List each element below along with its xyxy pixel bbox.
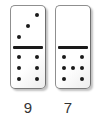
pip-cell <box>60 9 69 20</box>
pip-icon <box>62 77 66 81</box>
pip-icon <box>35 55 39 59</box>
pip-icon <box>26 24 30 28</box>
pip-cell <box>32 31 41 42</box>
pip-cell <box>15 20 24 31</box>
pip-cell <box>69 74 78 85</box>
pip-cell <box>32 63 41 74</box>
pip-cell <box>15 74 24 85</box>
pip-cell <box>77 20 86 31</box>
domino-bottom-half <box>56 49 90 89</box>
pip-icon <box>35 13 39 17</box>
pip-icon <box>80 77 84 81</box>
pip-icon <box>17 35 21 39</box>
pip-cell <box>15 52 24 63</box>
pip-cell <box>77 9 86 20</box>
pip-icon <box>80 66 84 70</box>
pip-icon <box>17 77 21 81</box>
pip-cell <box>69 31 78 42</box>
domino-bottom-half <box>11 49 45 89</box>
pip-cell <box>60 63 69 74</box>
pip-cell <box>24 52 33 63</box>
pip-cell <box>32 9 41 20</box>
domino-3-6 <box>10 5 46 89</box>
pip-cell <box>32 74 41 85</box>
pip-icon <box>17 55 21 59</box>
pip-cell <box>32 20 41 31</box>
pip-cell <box>69 63 78 74</box>
pip-cell <box>69 20 78 31</box>
pip-cell <box>32 52 41 63</box>
domino-column-left: 9 <box>10 5 46 115</box>
pip-icon <box>17 66 21 70</box>
pip-cell <box>60 20 69 31</box>
pip-cell <box>24 9 33 20</box>
domino-column-right: 7 <box>55 5 91 115</box>
pip-cell <box>24 20 33 31</box>
domino-top-half <box>11 6 45 46</box>
pip-cell <box>60 31 69 42</box>
dominoes-board: 9 7 <box>0 0 101 119</box>
pip-cell <box>77 52 86 63</box>
pip-icon <box>62 55 66 59</box>
domino-0-7 <box>55 5 91 89</box>
pip-cell <box>69 9 78 20</box>
pip-icon <box>71 66 75 70</box>
pip-cell <box>77 31 86 42</box>
pip-cell <box>69 52 78 63</box>
pip-cell <box>24 74 33 85</box>
domino-top-half <box>56 6 90 46</box>
pip-cell <box>77 74 86 85</box>
pip-icon <box>35 77 39 81</box>
pip-cell <box>15 31 24 42</box>
pip-cell <box>60 74 69 85</box>
pip-cell <box>24 63 33 74</box>
pip-icon <box>62 66 66 70</box>
pip-cell <box>60 52 69 63</box>
domino-value-label: 7 <box>64 100 72 115</box>
pip-cell <box>77 63 86 74</box>
pip-icon <box>35 66 39 70</box>
pip-cell <box>15 63 24 74</box>
pip-cell <box>15 9 24 20</box>
domino-value-label: 9 <box>24 100 32 115</box>
pip-icon <box>80 55 84 59</box>
pip-cell <box>24 31 33 42</box>
